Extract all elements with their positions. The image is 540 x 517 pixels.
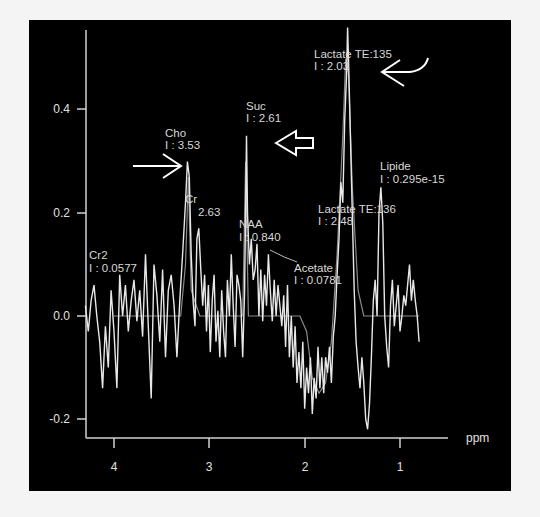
naa-label: NAA	[239, 218, 263, 230]
lactate-te136-label: Lactate TE:136	[318, 203, 396, 215]
acetate-label: Acetate	[294, 262, 333, 274]
fitted-curve	[114, 59, 419, 394]
acetate-pointer-line	[270, 250, 297, 262]
y-tick-label: -0.2	[49, 412, 70, 426]
x-tick-label: 3	[206, 460, 213, 474]
cho-value: I : 3.53	[165, 139, 200, 151]
suc-arrow-icon	[276, 131, 313, 155]
spectrum-chart: 0.4 0.2 0.0 -0.2 4 3 2 1 ppm Cho I : 3.5…	[0, 0, 540, 517]
cho-arrow-icon	[133, 154, 181, 178]
x-ticks	[114, 438, 400, 448]
suc-label: Suc	[246, 100, 266, 112]
lactate-te135-value: I : 2.03	[314, 60, 349, 72]
x-axis-unit: ppm	[466, 431, 489, 445]
cr2-label: Cr2	[89, 249, 108, 261]
lipide-label: Lipide	[380, 160, 411, 172]
cho-label: Cho	[165, 127, 186, 139]
lipide-value: I : 0.295e-15	[380, 173, 445, 185]
x-tick-label: 1	[397, 460, 404, 474]
suc-value: I : 2.61	[246, 112, 281, 124]
y-tick-label: 0.4	[53, 102, 70, 116]
naa-value: I : 0.840	[239, 231, 281, 243]
x-tick-label: 4	[111, 460, 118, 474]
cr2-value: I : 0.0577	[89, 262, 137, 274]
acetate-value: I : 0.0781	[294, 274, 342, 286]
cr-label: Cr	[185, 193, 197, 205]
x-tick-label: 2	[302, 460, 309, 474]
y-tick-label: 0.0	[53, 309, 70, 323]
cr-value: 2.63	[198, 206, 220, 218]
y-tick-label: 0.2	[53, 206, 70, 220]
lactate-te135-label: Lactate TE:135	[314, 48, 392, 60]
y-ticks	[77, 109, 86, 419]
lactate-te136-value: I : 2.48	[318, 215, 353, 227]
lactate-arrow-icon	[382, 58, 428, 86]
